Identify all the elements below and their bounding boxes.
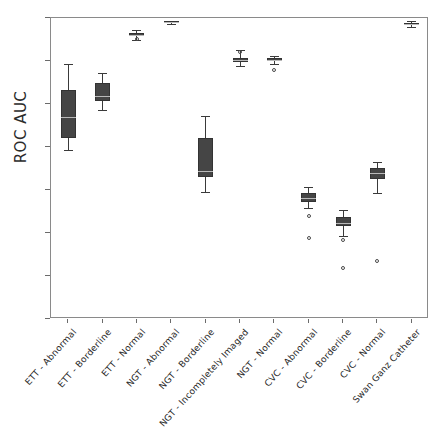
x-tick-mark bbox=[273, 319, 274, 323]
x-tick-mark bbox=[205, 319, 206, 323]
box-plot-item bbox=[51, 18, 429, 319]
x-tick-mark bbox=[376, 319, 377, 323]
y-axis-title: ROC AUC bbox=[12, 62, 30, 192]
whisker-cap-upper bbox=[407, 21, 416, 22]
y-tick-mark bbox=[45, 318, 50, 319]
x-tick-label: Swan Ganz Catheter bbox=[351, 327, 423, 405]
whisker-cap-lower bbox=[407, 27, 416, 28]
x-tick-mark bbox=[411, 319, 412, 323]
x-tick-mark bbox=[342, 319, 343, 323]
x-tick-mark bbox=[239, 319, 240, 323]
median-line bbox=[404, 24, 419, 25]
plot-area bbox=[50, 17, 428, 318]
x-tick-mark bbox=[308, 319, 309, 323]
x-tick-mark bbox=[102, 319, 103, 323]
x-tick-mark bbox=[67, 319, 68, 323]
x-tick-mark bbox=[136, 319, 137, 323]
x-tick-mark bbox=[170, 319, 171, 323]
